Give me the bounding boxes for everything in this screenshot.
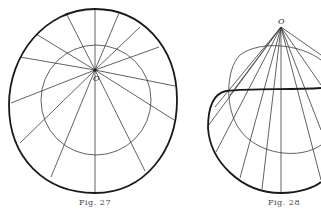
fig-27-circle bbox=[41, 45, 151, 155]
fig-27-label-o: O bbox=[93, 74, 100, 83]
fig-28-inner-curve bbox=[229, 46, 321, 154]
figure-canvas: O Fig. 27 O Fig. 28 bbox=[0, 0, 321, 211]
fig-28-label-o: O bbox=[278, 17, 285, 26]
fig-27-point-o bbox=[93, 68, 96, 71]
fig-27: O Fig. 27 bbox=[9, 9, 177, 207]
fig-28-caption: Fig. 28 bbox=[268, 198, 300, 207]
fig-27-boundary bbox=[9, 9, 177, 193]
fig-27-caption: Fig. 27 bbox=[79, 198, 111, 207]
fig-28: O Fig. 28 bbox=[208, 17, 321, 207]
fig-28-boundary bbox=[208, 88, 321, 193]
